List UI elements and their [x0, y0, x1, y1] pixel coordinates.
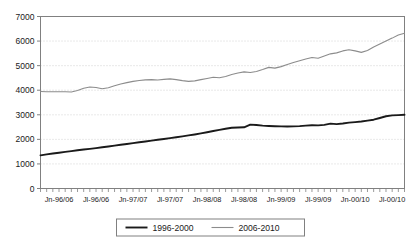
x-axis-label: Jn-97/07	[119, 195, 148, 204]
x-axis-label: Jl-00/10	[379, 195, 405, 204]
y-axis-label: 4000	[16, 85, 35, 95]
x-axis-label: Jl-99/09	[305, 195, 331, 204]
y-axis-label: 5000	[16, 61, 35, 71]
x-axis-label: Jn-00/10	[341, 195, 370, 204]
series-line-2	[41, 33, 405, 92]
y-axis-label: 2000	[16, 134, 35, 144]
x-axis-label: Jl-96/06	[83, 195, 109, 204]
y-axis-label: 3000	[16, 110, 35, 120]
chart-container: 01000200030004000500060007000Jn-96/06Jl-…	[0, 0, 419, 244]
plot-frame	[41, 17, 405, 189]
y-axis-label: 0	[30, 184, 35, 194]
x-axis-label: Jn-99/09	[267, 195, 296, 204]
x-axis-label: Jn-96/06	[45, 195, 74, 204]
x-axis-label: Jl-98/08	[231, 195, 257, 204]
series-line-1	[41, 115, 405, 156]
y-axis-label: 1000	[16, 159, 35, 169]
y-axis-label: 7000	[16, 12, 35, 22]
y-axis-label: 6000	[16, 36, 35, 46]
x-axis-label: Jl-97/07	[157, 195, 183, 204]
x-axis-label: Jn-98/08	[193, 195, 222, 204]
legend-label-1: 1996-2000	[153, 223, 194, 233]
legend-label-2: 2006-2010	[239, 223, 280, 233]
line-chart: 01000200030004000500060007000Jn-96/06Jl-…	[0, 0, 419, 244]
